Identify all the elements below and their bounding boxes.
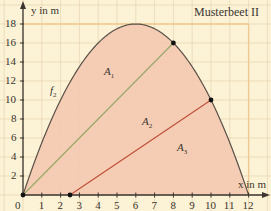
y-tick-label: 12 [5,75,16,86]
chart-title: Musterbeet II [194,6,259,18]
f2-label: f2 [50,85,57,99]
x-tick-label: 10 [205,200,216,211]
area-under-f2 [23,24,249,195]
x-tick-label: 0 [15,200,21,211]
x-tick-label: 9 [189,200,195,211]
region-a3-label: A3 [177,142,187,156]
x-tick-label: 8 [170,200,176,211]
y-tick-label: 4 [11,151,17,162]
x-tick-label: 11 [224,200,235,211]
x-tick-label: 12 [243,200,254,211]
y-tick-label: 8 [11,113,17,124]
x-axis-label: x in m [238,179,266,190]
region-a2-label: A2 [142,116,152,130]
y-tick-label: 16 [5,37,16,48]
x-tick-label: 3 [76,200,82,211]
region-a1-label: A1 [104,66,114,80]
x-tick-label: 2 [58,200,64,211]
x-tick-label: 4 [95,200,101,211]
y-tick-label: 18 [5,18,16,29]
x-tick-label: 1 [39,200,45,211]
y-axis-label: y in m [31,5,59,16]
x-tick-label: 5 [114,200,120,211]
x-tick-label: 6 [133,200,139,211]
y-tick-label: 14 [5,56,16,67]
y-tick-label: 10 [5,94,16,105]
chart-canvas [0,0,271,211]
x-tick-label: 7 [152,200,158,211]
y-tick-label: 2 [11,170,17,181]
y-tick-label: 6 [11,132,17,143]
